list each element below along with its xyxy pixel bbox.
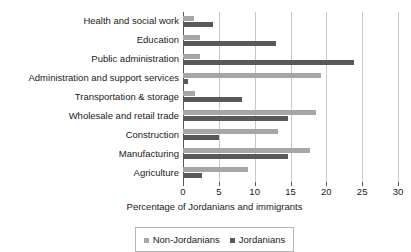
x-axis-title: Percentage of Jordanians and immigrants [0,200,411,213]
x-axis-tick-labels: 051015202530 [0,186,411,200]
bar [183,60,354,65]
legend-item[interactable]: Non-Jordanians [144,234,220,246]
bar [183,79,188,84]
bar-group [183,144,398,163]
bar [183,41,276,46]
legend-swatch-icon [144,238,149,243]
category-label: Education [137,34,179,45]
bar [183,22,213,27]
category-label: Health and social work [83,15,179,26]
bar [183,129,278,134]
bar [183,97,242,102]
x-axis-tick-label: 25 [357,186,368,198]
legend: Non-JordaniansJordanians [0,227,411,252]
legend-label: Jordanians [239,234,285,245]
x-axis-tick-label: 0 [180,186,185,198]
category-label: Agriculture [134,167,179,178]
bar-group [183,50,398,69]
bar [183,135,219,140]
category-label: Administration and support services [29,72,180,83]
bar [183,91,195,96]
x-axis-tick-label: 5 [216,186,221,198]
bar-group [183,69,398,88]
bar-rows [183,12,398,182]
x-axis-tick-label: 15 [285,186,296,198]
category-label: Construction [126,129,179,140]
category-label: Wholesale and retail trade [69,110,179,121]
legend-box: Non-JordaniansJordanians [135,227,295,252]
bar-group [183,12,398,31]
legend-label: Non-Jordanians [153,234,220,245]
bar-group [183,106,398,125]
x-axis-tick-label: 10 [249,186,260,198]
bar-group [183,31,398,50]
bar [183,148,310,153]
bar [183,73,321,78]
bar [183,154,288,159]
plot-area [183,12,398,182]
bar [183,116,288,121]
bar-group [183,163,398,182]
legend-swatch-icon [230,238,235,243]
x-axis-tick-label: 30 [393,186,404,198]
category-label: Public administration [91,53,179,64]
bar [183,110,316,115]
category-label: Manufacturing [119,148,179,159]
category-axis-labels: Health and social workEducationPublic ad… [0,12,179,182]
bar [183,35,200,40]
bar [183,173,202,178]
x-axis-title-text: Percentage of Jordanians and immigrants [127,200,303,213]
bar-group [183,125,398,144]
bar [183,54,200,59]
x-axis-tick-label: 20 [321,186,332,198]
legend-item[interactable]: Jordanians [230,234,285,246]
gridline [398,12,399,182]
bar [183,167,248,172]
bar-chart: Health and social workEducationPublic ad… [0,0,411,252]
category-label: Transportation & storage [75,91,179,102]
bar [183,16,194,21]
bar-group [183,88,398,107]
